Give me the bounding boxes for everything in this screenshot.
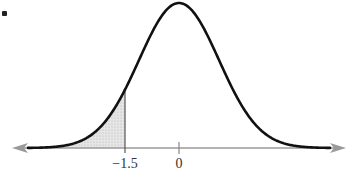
normal-curve-chart: [0, 0, 348, 179]
normal-curve: [28, 3, 330, 148]
tick-label-neg-1-5: −1.5: [112, 156, 137, 172]
shaded-left-tail: [28, 90, 125, 148]
tick-label-zero: 0: [176, 156, 183, 172]
